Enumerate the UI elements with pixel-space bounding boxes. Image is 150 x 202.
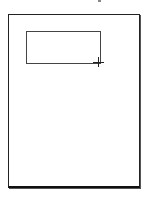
crosshair-icon-vertical — [98, 57, 99, 67]
selection-rectangle[interactable] — [26, 31, 101, 64]
top-edge-mark — [98, 0, 101, 2]
